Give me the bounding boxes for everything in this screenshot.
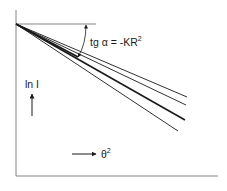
diagram-canvas: tg α = -KR2 ln I θ2 [0, 0, 227, 191]
slope-annotation: tg α = -KR2 [90, 35, 142, 48]
x-axis-label: θ2 [101, 147, 111, 160]
y-axis-label: ln I [25, 78, 39, 90]
line-1 [16, 24, 187, 97]
